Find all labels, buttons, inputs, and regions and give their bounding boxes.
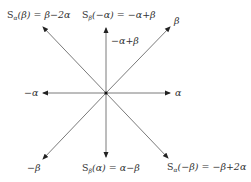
label-s-beta-alpha: Sβ(α) = α−β: [82, 163, 140, 174]
s-argument: (−β): [178, 161, 199, 172]
label-beta: β: [174, 16, 180, 26]
label-neg-beta: −β: [27, 163, 40, 173]
s-result: = β−2α: [30, 9, 70, 20]
s-argument: (−α): [92, 9, 114, 20]
label-neg-alpha: −α: [24, 88, 38, 98]
s-result: = −α+β: [114, 9, 156, 20]
label-s-alpha-beta: Sα(β) = β−2α: [7, 10, 70, 21]
neg-beta-arrow: [43, 93, 106, 159]
s-argument: (β): [18, 9, 31, 20]
s-result: = α−β: [106, 162, 140, 173]
s-alpha-neg-beta-arrow: [106, 93, 168, 158]
s-alpha-beta-arrow: [43, 27, 106, 93]
label-s-alpha-neg-beta: Sα(−β) = −β+2α: [167, 162, 246, 173]
label-alpha: α: [175, 88, 181, 98]
s-result: = −β+2α: [198, 161, 246, 172]
origin-dot: [104, 91, 107, 94]
label-neg-alpha-plus-beta: −α+β: [111, 36, 139, 46]
label-s-beta-neg-alpha: Sβ(−α) = −α+β: [82, 10, 156, 21]
s-argument: (α): [92, 162, 106, 173]
